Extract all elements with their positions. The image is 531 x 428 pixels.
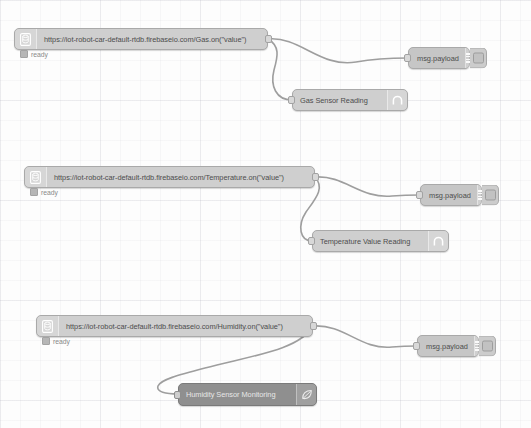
input-port[interactable] bbox=[416, 191, 423, 199]
node-label: https://iot-robot-car-default-rtdb.fireb… bbox=[37, 35, 253, 44]
output-port[interactable] bbox=[265, 35, 272, 43]
function-node-humidity[interactable]: Humidity Sensor Monitoring bbox=[178, 383, 317, 406]
leaf-icon bbox=[296, 384, 316, 405]
firebase-source-node-temperature[interactable]: https://iot-robot-car-default-rtdb.fireb… bbox=[24, 166, 315, 188]
wire-gas-source-to-debug bbox=[268, 39, 408, 63]
firebase-source-node-gas[interactable]: https://iot-robot-car-default-rtdb.fireb… bbox=[14, 28, 268, 50]
node-label: Gas Sensor Reading bbox=[293, 96, 375, 105]
wire-temp-source-to-debug bbox=[315, 177, 420, 196]
input-port[interactable] bbox=[308, 237, 315, 245]
node-label: Temperature Value Reading bbox=[313, 237, 417, 246]
node-status-humidity: ready bbox=[42, 337, 70, 345]
status-dot bbox=[30, 188, 38, 196]
debug-toggle-button[interactable] bbox=[482, 185, 499, 206]
debug-node-gas[interactable]: msg.payload bbox=[408, 47, 470, 69]
node-label: msg.payload bbox=[421, 191, 477, 200]
output-port[interactable] bbox=[310, 322, 317, 330]
node-label: msg.payload bbox=[409, 54, 465, 63]
debug-toggle-button[interactable] bbox=[479, 336, 496, 357]
status-dot bbox=[42, 337, 50, 345]
input-port[interactable] bbox=[413, 342, 420, 350]
database-icon bbox=[15, 29, 37, 49]
database-icon bbox=[37, 316, 59, 336]
status-dot bbox=[20, 50, 28, 58]
flow-canvas[interactable]: https://iot-robot-car-default-rtdb.fireb… bbox=[0, 0, 531, 428]
output-port[interactable] bbox=[312, 173, 319, 181]
database-icon bbox=[25, 167, 47, 187]
node-label: Humidity Sensor Monitoring bbox=[179, 390, 282, 399]
function-node-gas[interactable]: Gas Sensor Reading bbox=[292, 89, 408, 111]
function-icon bbox=[428, 231, 448, 251]
debug-node-temperature[interactable]: msg.payload bbox=[420, 184, 482, 206]
debug-toggle-button[interactable] bbox=[470, 48, 487, 69]
wire-gas-source-to-function bbox=[268, 39, 292, 100]
status-text: ready bbox=[53, 338, 70, 345]
function-icon bbox=[387, 90, 407, 110]
input-port[interactable] bbox=[404, 54, 411, 62]
node-label: https://iot-robot-car-default-rtdb.fireb… bbox=[59, 322, 290, 331]
node-label: msg.payload bbox=[418, 342, 474, 351]
node-status-temperature: ready bbox=[30, 188, 58, 196]
wire-hum-source-to-debug bbox=[313, 326, 417, 347]
input-port[interactable] bbox=[288, 96, 295, 104]
status-text: ready bbox=[41, 189, 58, 196]
input-port[interactable] bbox=[174, 391, 181, 399]
firebase-source-node-humidity[interactable]: https://iot-robot-car-default-rtdb.fireb… bbox=[36, 315, 313, 337]
debug-node-humidity[interactable]: msg.payload bbox=[417, 335, 479, 357]
status-text: ready bbox=[31, 51, 48, 58]
node-status-gas: ready bbox=[20, 50, 48, 58]
function-node-temperature[interactable]: Temperature Value Reading bbox=[312, 230, 449, 252]
node-label: https://iot-robot-car-default-rtdb.fireb… bbox=[47, 173, 291, 182]
